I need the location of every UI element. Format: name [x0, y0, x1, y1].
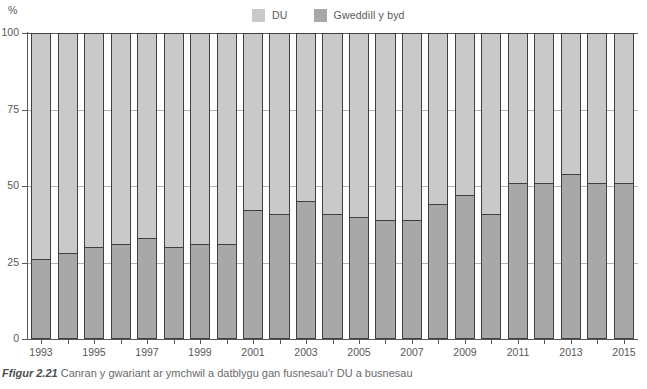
bar-segment-du-2011 — [508, 33, 528, 183]
bar-segment-gweddill-y-byd-2004 — [322, 214, 342, 339]
bar-2000 — [217, 33, 237, 339]
legend-label-gweddill-y-byd: Gweddill y byd — [334, 10, 405, 21]
y-axis-tick-label: 75 — [7, 103, 19, 115]
bar-segment-gweddill-y-byd-1999 — [190, 244, 210, 339]
bar-2013 — [561, 33, 581, 339]
legend-item-du: DU — [252, 9, 288, 22]
bar-1997 — [137, 33, 157, 339]
bar-2010 — [481, 33, 501, 339]
bar-segment-du-1993 — [31, 33, 51, 259]
bar-2008 — [428, 33, 448, 339]
bar-segment-gweddill-y-byd-2003 — [296, 201, 316, 339]
bar-segment-du-1995 — [84, 33, 104, 247]
bar-segment-gweddill-y-byd-2013 — [561, 174, 581, 339]
bar-segment-du-2005 — [349, 33, 369, 217]
y-axis-unit-label: % — [8, 4, 17, 16]
bar-segment-du-2012 — [534, 33, 554, 183]
bar-segment-gweddill-y-byd-2015 — [614, 183, 634, 339]
bar-segment-du-2002 — [269, 33, 289, 214]
x-axis-tick-2011 — [518, 339, 519, 344]
x-axis-tick-2015 — [624, 339, 625, 344]
bar-2012 — [534, 33, 554, 339]
bar-segment-du-2013 — [561, 33, 581, 174]
x-axis-tick-2008 — [438, 339, 439, 344]
y-axis-tick-25: 25 — [0, 263, 28, 264]
bar-segment-du-2009 — [455, 33, 475, 195]
x-axis-tick-label-1997: 1997 — [135, 346, 158, 358]
bar-segment-gweddill-y-byd-2012 — [534, 183, 554, 339]
x-axis-tick-1996 — [121, 339, 122, 344]
y-axis-tick-0: 0 — [0, 339, 28, 340]
x-axis-tick-2005 — [359, 339, 360, 344]
x-axis-tick-label-1995: 1995 — [82, 346, 105, 358]
x-axis-tick-label-2007: 2007 — [400, 346, 423, 358]
figure-caption-text: Canran y gwariant ar ymchwil a datblygu … — [61, 367, 413, 379]
x-axis-tick-2009 — [465, 339, 466, 344]
x-axis-tick-label-2001: 2001 — [241, 346, 264, 358]
bar-segment-gweddill-y-byd-2010 — [481, 214, 501, 339]
bar-2007 — [402, 33, 422, 339]
x-axis-tick-2007 — [412, 339, 413, 344]
bar-segment-du-2014 — [587, 33, 607, 183]
x-axis-tick-2002 — [280, 339, 281, 344]
bar-segment-du-1999 — [190, 33, 210, 244]
figure-caption-number: Ffigur 2.21 — [2, 367, 58, 379]
bar-segment-gweddill-y-byd-2005 — [349, 217, 369, 339]
x-axis-tick-label-2011: 2011 — [507, 346, 530, 358]
y-axis-tick-100: 100 — [0, 33, 28, 34]
x-axis-tick-2010 — [491, 339, 492, 344]
x-axis-tick-1994 — [68, 339, 69, 344]
y-axis-tick-50: 50 — [0, 186, 28, 187]
bar-2005 — [349, 33, 369, 339]
bar-segment-du-2000 — [217, 33, 237, 244]
bar-1993 — [31, 33, 51, 339]
bar-segment-gweddill-y-byd-2001 — [243, 210, 263, 339]
bar-segment-du-1996 — [111, 33, 131, 244]
legend-swatch-rest-of-world — [314, 9, 327, 22]
x-axis-tick-label-2003: 2003 — [294, 346, 317, 358]
bar-segment-du-1997 — [137, 33, 157, 238]
x-axis-tick-2014 — [597, 339, 598, 344]
bar-segment-du-2006 — [375, 33, 395, 220]
bar-segment-du-2015 — [614, 33, 634, 183]
x-axis-tick-2001 — [253, 339, 254, 344]
x-axis-tick-1993 — [41, 339, 42, 344]
bar-segment-gweddill-y-byd-1995 — [84, 247, 104, 339]
bar-segment-du-2008 — [428, 33, 448, 204]
bar-2011 — [508, 33, 528, 339]
figure-caption: Ffigur 2.21 Canran y gwariant ar ymchwil… — [2, 367, 645, 381]
bar-series-layer — [28, 33, 637, 339]
x-axis-tick-2000 — [227, 339, 228, 344]
x-axis-tick-2004 — [333, 339, 334, 344]
bar-segment-du-2010 — [481, 33, 501, 214]
x-axis-tick-1997 — [147, 339, 148, 344]
legend-item-gweddill-y-byd: Gweddill y byd — [314, 9, 405, 22]
y-axis-tick-75: 75 — [0, 110, 28, 111]
x-axis-tick-2006 — [385, 339, 386, 344]
x-axis-tick-1998 — [174, 339, 175, 344]
figure-container: DU Gweddill y byd % 0255075100 199319951… — [0, 0, 647, 389]
bar-segment-gweddill-y-byd-1998 — [164, 247, 184, 339]
bar-1998 — [164, 33, 184, 339]
bar-2015 — [614, 33, 634, 339]
x-axis-tick-2003 — [306, 339, 307, 344]
legend-swatch-du — [252, 9, 265, 22]
bar-2004 — [322, 33, 342, 339]
x-axis-tick-1999 — [200, 339, 201, 344]
bar-segment-du-2007 — [402, 33, 422, 220]
legend-label-du: DU — [272, 10, 288, 21]
bar-segment-gweddill-y-byd-1997 — [137, 238, 157, 339]
y-axis-tick-label: 50 — [7, 179, 19, 191]
bar-2006 — [375, 33, 395, 339]
bar-segment-gweddill-y-byd-1996 — [111, 244, 131, 339]
x-axis-tick-2013 — [571, 339, 572, 344]
bar-1994 — [58, 33, 78, 339]
bar-segment-du-2003 — [296, 33, 316, 201]
bar-segment-gweddill-y-byd-2014 — [587, 183, 607, 339]
bar-segment-du-1998 — [164, 33, 184, 247]
x-axis-tick-label-1993: 1993 — [29, 346, 52, 358]
bar-segment-gweddill-y-byd-2000 — [217, 244, 237, 339]
bar-segment-du-2001 — [243, 33, 263, 210]
x-axis-tick-label-1999: 1999 — [188, 346, 211, 358]
bar-segment-gweddill-y-byd-2002 — [269, 214, 289, 339]
